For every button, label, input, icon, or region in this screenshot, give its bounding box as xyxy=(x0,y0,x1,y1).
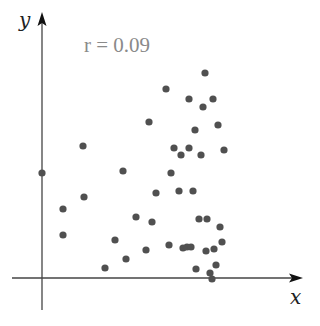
data-point xyxy=(162,85,169,92)
data-point xyxy=(122,255,129,262)
data-point xyxy=(148,218,155,225)
data-point xyxy=(202,247,209,254)
data-point xyxy=(220,146,227,153)
data-point xyxy=(59,231,66,238)
data-point xyxy=(80,193,87,200)
data-point xyxy=(132,213,139,220)
data-point xyxy=(165,241,172,248)
data-point xyxy=(59,205,66,212)
data-point xyxy=(167,169,174,176)
data-point xyxy=(214,121,221,128)
data-point xyxy=(218,238,225,245)
data-point xyxy=(101,264,108,271)
data-point xyxy=(210,245,217,252)
data-point xyxy=(177,151,184,158)
scatter-plot: y x r = 0.09 xyxy=(0,0,320,326)
data-point xyxy=(199,103,206,110)
data-point xyxy=(119,167,126,174)
data-point xyxy=(175,187,182,194)
data-point xyxy=(189,187,196,194)
data-point xyxy=(145,118,152,125)
data-point xyxy=(203,215,210,222)
data-point xyxy=(185,95,192,102)
data-point xyxy=(38,169,45,176)
data-point xyxy=(197,151,204,158)
data-point xyxy=(209,95,216,102)
data-points xyxy=(38,69,227,282)
data-point xyxy=(192,265,199,272)
data-point xyxy=(195,215,202,222)
data-point xyxy=(170,144,177,151)
data-point xyxy=(185,144,192,151)
data-point xyxy=(208,275,215,282)
data-point xyxy=(142,246,149,253)
x-axis-label: x xyxy=(290,285,301,309)
data-point xyxy=(212,261,219,268)
correlation-annotation: r = 0.09 xyxy=(84,33,150,57)
data-point xyxy=(79,142,86,149)
data-point xyxy=(201,69,208,76)
y-axis-label: y xyxy=(18,8,31,32)
data-point xyxy=(152,189,159,196)
data-point xyxy=(187,243,194,250)
data-point xyxy=(191,126,198,133)
axes xyxy=(12,12,303,310)
data-point xyxy=(216,223,223,230)
data-point xyxy=(111,236,118,243)
